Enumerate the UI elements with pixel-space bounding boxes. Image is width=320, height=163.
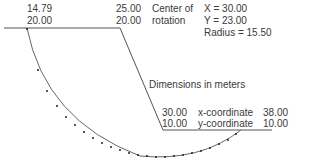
slice-dots bbox=[26, 28, 237, 158]
toe-y: 10.00 bbox=[162, 118, 187, 129]
crest-y: 20.00 bbox=[116, 15, 141, 26]
radius-value: Radius = 15.50 bbox=[204, 27, 272, 38]
y-coordinate-label: y-coordinate bbox=[198, 118, 253, 129]
center-y-value: Y = 23.00 bbox=[204, 15, 247, 26]
arc-entry-y: 20.00 bbox=[27, 15, 52, 26]
center-label-line2: rotation bbox=[152, 15, 185, 26]
center-x-value: X = 30.00 bbox=[204, 3, 247, 14]
units-note: Dimensions in meters bbox=[149, 79, 245, 90]
x-coordinate-label: x-coordinate bbox=[198, 107, 253, 118]
arc-exit-x: 38.00 bbox=[263, 107, 288, 118]
arc-exit-y: 10.00 bbox=[263, 118, 288, 129]
slip-circle-arc bbox=[27, 28, 241, 157]
center-label-line1: Center of bbox=[152, 3, 193, 14]
crest-x: 25.00 bbox=[116, 3, 141, 14]
toe-x: 30.00 bbox=[162, 107, 187, 118]
arc-entry-x: 14.79 bbox=[27, 3, 52, 14]
